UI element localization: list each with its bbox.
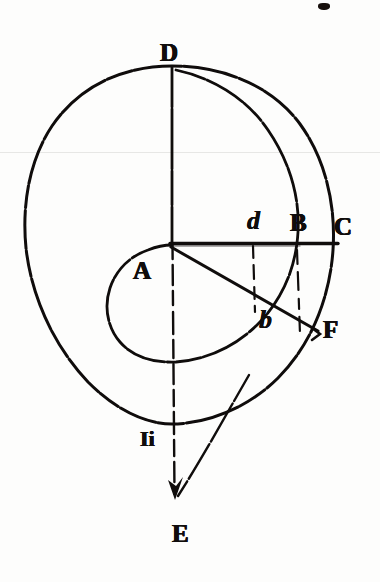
label-Ii: Ii (140, 428, 155, 450)
figure-page: D d B C A b F Ii E (0, 0, 380, 582)
label-B: B (290, 210, 307, 235)
label-b: b (259, 307, 272, 333)
dashed-drop-d-line (253, 246, 255, 312)
pointer-line (178, 375, 249, 496)
label-A: A (133, 258, 151, 283)
pointer-line-to-E (178, 375, 249, 496)
dashed-drop-B-line (297, 250, 300, 334)
label-d: d (247, 208, 260, 234)
vertical-axis-group (172, 67, 175, 494)
dashed-drop-B (297, 250, 300, 334)
line-A-to-F (171, 247, 318, 331)
label-E: E (172, 521, 189, 546)
label-D: D (160, 40, 178, 65)
label-F: F (323, 317, 338, 342)
spiral-diagram-svg (0, 0, 380, 582)
label-C: C (334, 214, 352, 239)
dashed-drop-d (253, 246, 255, 312)
vertical-axis-lower-dashed (173, 243, 175, 494)
